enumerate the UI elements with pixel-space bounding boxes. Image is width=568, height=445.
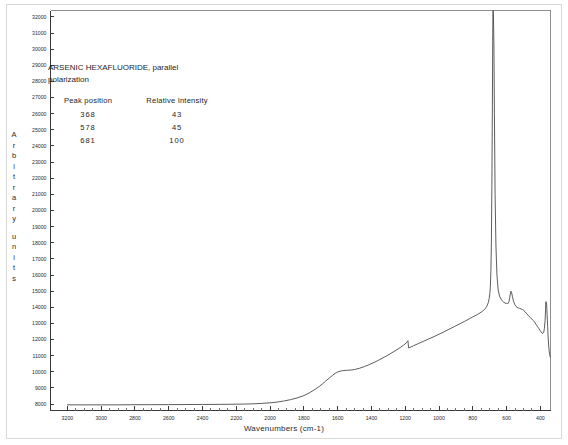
x-tick-label: 3200 (62, 415, 74, 421)
peak-table: Peak position Relative Intensity 3684357… (47, 96, 225, 149)
peak-table-row: 57845 (47, 123, 225, 136)
x-tick-label: 1600 (332, 415, 344, 421)
y-axis-title-char: r (7, 204, 21, 215)
y-axis-title: Arbitraryunits (7, 130, 21, 284)
x-axis-ticks: 3200300028002600240022002000180016001400… (62, 406, 545, 421)
x-tick-label: 2800 (129, 415, 141, 421)
y-tick-label: 17000 (32, 256, 47, 262)
y-axis-title-char: t (7, 172, 21, 183)
y-axis-title-char: s (7, 274, 21, 285)
annotation-title-line2: polarization (48, 75, 89, 84)
annotation-block: ARSENIC HEXAFLUORIDE, parallel polarizat… (47, 62, 377, 149)
peak-table-row: 681100 (47, 136, 225, 149)
y-tick-label: 8000 (35, 401, 47, 407)
peak-table-row: 36843 (47, 110, 225, 123)
y-tick-label: 9000 (35, 385, 47, 391)
y-axis-title-char: u (7, 232, 21, 243)
x-tick-label: 1000 (433, 415, 445, 421)
x-tick-label: 400 (536, 415, 545, 421)
y-tick-label: 20000 (32, 207, 47, 213)
relative-intensity-cell: 45 (129, 123, 225, 136)
y-tick-label: 22000 (32, 175, 47, 181)
y-axis-title-word-gap (7, 225, 21, 232)
x-tick-label: 2600 (163, 415, 175, 421)
relative-intensity-header: Relative Intensity (129, 96, 225, 110)
y-tick-label: 32000 (32, 14, 47, 20)
relative-intensity-cell: 100 (129, 136, 225, 149)
x-tick-label: 1400 (366, 415, 378, 421)
y-axis-title-char: y (7, 214, 21, 225)
y-axis-title-char: i (7, 253, 21, 264)
x-tick-label: 2200 (231, 415, 243, 421)
y-axis-title-char: A (7, 130, 21, 141)
y-tick-label: 28000 (32, 78, 47, 84)
y-tick-label: 16000 (32, 272, 47, 278)
y-tick-label: 13000 (32, 320, 47, 326)
y-tick-label: 12000 (32, 336, 47, 342)
y-tick-label: 24000 (32, 143, 47, 149)
annotation-title: ARSENIC HEXAFLUORIDE, parallel polarizat… (48, 62, 377, 85)
y-tick-label: 21000 (32, 191, 47, 197)
peak-position-cell: 578 (47, 123, 129, 136)
peak-table-header-row: Peak position Relative Intensity (47, 96, 225, 110)
y-tick-label: 14000 (32, 304, 47, 310)
y-axis-title-char: r (7, 141, 21, 152)
x-tick-label: 1800 (298, 415, 310, 421)
spectrum-figure: 8000900010000110001200013000140001500016… (0, 0, 568, 445)
y-axis-title-char: t (7, 263, 21, 274)
annotation-title-line1: ARSENIC HEXAFLUORIDE, parallel (48, 63, 178, 72)
y-axis-title-char: b (7, 151, 21, 162)
x-tick-label: 1200 (399, 415, 411, 421)
x-tick-label: 2400 (197, 415, 209, 421)
y-tick-label: 18000 (32, 240, 47, 246)
y-tick-label: 10000 (32, 369, 47, 375)
y-axis-title-char: i (7, 162, 21, 173)
y-tick-label: 31000 (32, 30, 47, 36)
x-axis-title: Wavenumbers (cm-1) (0, 424, 568, 433)
peak-table-body: 3684357845681100 (47, 110, 225, 149)
y-tick-label: 27000 (32, 94, 47, 100)
y-tick-label: 26000 (32, 111, 47, 117)
y-tick-label: 29000 (32, 62, 47, 68)
x-tick-label: 3000 (95, 415, 107, 421)
y-tick-label: 25000 (32, 127, 47, 133)
relative-intensity-cell: 43 (129, 110, 225, 123)
y-tick-label: 19000 (32, 224, 47, 230)
y-axis-title-char: a (7, 193, 21, 204)
y-axis-title-char: n (7, 242, 21, 253)
peak-position-header: Peak position (47, 96, 129, 110)
y-tick-label: 23000 (32, 159, 47, 165)
peak-position-cell: 681 (47, 136, 129, 149)
y-axis-title-char: r (7, 183, 21, 194)
peak-position-cell: 368 (47, 110, 129, 123)
x-tick-label: 2000 (264, 415, 276, 421)
x-tick-label: 800 (468, 415, 477, 421)
y-tick-label: 30000 (32, 46, 47, 52)
y-tick-label: 15000 (32, 288, 47, 294)
x-tick-label: 600 (502, 415, 511, 421)
y-tick-label: 11000 (32, 353, 46, 359)
